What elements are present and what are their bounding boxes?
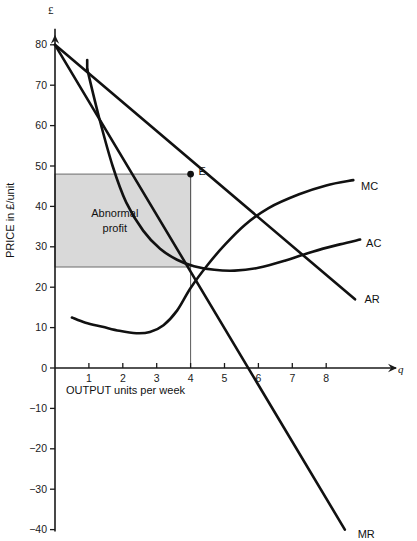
economics-chart: Abnormalprofit 80706050403020100−10−20−3… [0,0,417,541]
y-axis-symbol-label: £ [48,4,54,16]
axis-tick-labels: 80706050403020100−10−20−30−4012345678 [29,38,329,535]
curve-label-ac: AC [366,237,381,249]
curve-labels: ARMRACMC [358,180,382,539]
x-tick-label-7: 7 [289,372,295,384]
x-tick-label-8: 8 [323,372,329,384]
curve-label-ar: AR [364,293,379,305]
y-axis-title: PRICE in £/unit [4,183,16,258]
x-tick-label-2: 2 [120,372,126,384]
y-tick-label--40: −40 [29,523,47,535]
abnormal-profit-shading: Abnormalprofit [55,174,191,267]
chart-canvas: Abnormalprofit 80706050403020100−10−20−3… [0,0,417,541]
curve-label-mr: MR [358,528,375,540]
y-tick-label-20: 20 [35,281,47,293]
y-tick-label-30: 30 [35,240,47,252]
abnormal-profit-region [55,174,191,267]
x-axis-symbol-label: q [398,363,404,375]
axes [51,29,397,532]
y-tick-label-80: 80 [35,38,47,50]
y-tick-label-70: 70 [35,79,47,91]
y-tick-label-40: 40 [35,200,47,212]
y-tick-label-10: 10 [35,321,47,333]
y-tick-label-0: 0 [41,362,47,374]
y-tick-label--20: −20 [29,442,47,454]
abnormal-profit-label-2: profit [103,222,127,234]
axis-ticks [50,45,326,530]
equilibrium-point-label: E [199,165,206,177]
y-tick-label-60: 60 [35,119,47,131]
x-axis-title: OUTPUT units per week [66,384,186,396]
y-tick-label--10: −10 [29,402,47,414]
equilibrium-point [187,171,194,178]
x-tick-label-1: 1 [86,372,92,384]
y-tick-label--30: −30 [29,483,47,495]
curve-label-mc: MC [361,180,378,192]
x-tick-label-3: 3 [154,372,160,384]
curves [55,45,360,530]
x-tick-label-4: 4 [188,372,194,384]
annotations: E [187,165,206,177]
x-tick-label-5: 5 [222,372,228,384]
y-tick-label-50: 50 [35,160,47,172]
